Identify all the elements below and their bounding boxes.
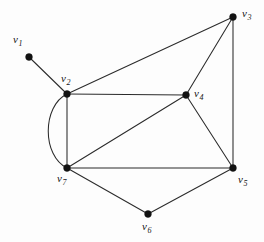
vertex-label-v5: v5 — [238, 174, 247, 185]
vertex-label-index: 1 — [18, 39, 22, 48]
vertex-label-index: 5 — [243, 179, 247, 188]
vertex-label-v4: v4 — [194, 88, 203, 99]
edge-v4-v7 — [67, 95, 186, 168]
vertex-label-v3: v3 — [242, 8, 251, 19]
vertex-v7 — [64, 165, 71, 172]
vertex-v6 — [145, 211, 152, 218]
edge-v6-v7 — [67, 168, 148, 214]
vertex-label-index: 4 — [199, 93, 203, 102]
vertex-layer — [26, 14, 237, 218]
graph-figure: v1v2v3v4v5v6v7 — [0, 0, 264, 242]
vertex-label-index: 6 — [147, 226, 151, 235]
edge-v2-v4 — [67, 94, 186, 95]
vertex-v2 — [64, 91, 71, 98]
edge-v4-v5 — [186, 95, 233, 168]
edge-v2-v7-arc — [48, 94, 67, 168]
vertex-label-v6: v6 — [142, 221, 151, 232]
vertex-v5 — [230, 165, 237, 172]
edge-v5-v6 — [148, 168, 233, 214]
vertex-v1 — [26, 54, 33, 61]
edge-v3-v4 — [186, 17, 233, 95]
vertex-label-v2: v2 — [61, 73, 70, 84]
vertex-label-index: 7 — [62, 178, 66, 187]
vertex-v3 — [230, 14, 237, 21]
graph-canvas — [0, 0, 264, 242]
edge-v2-v3 — [67, 17, 233, 94]
vertex-label-index: 2 — [66, 78, 70, 87]
vertex-label-v7: v7 — [57, 173, 66, 184]
vertex-v4 — [183, 92, 190, 99]
vertex-label-index: 3 — [247, 13, 251, 22]
edge-layer — [29, 17, 233, 214]
vertex-label-v1: v1 — [13, 34, 22, 45]
